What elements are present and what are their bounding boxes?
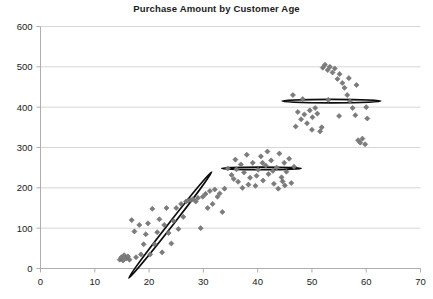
data-point <box>242 170 247 175</box>
data-point <box>164 205 169 210</box>
data-point <box>282 160 287 165</box>
x-tick-label-50: 50 <box>307 276 318 287</box>
data-point <box>210 201 215 206</box>
x-axis-ticks: 010203040506070 <box>38 269 426 287</box>
data-point <box>350 105 355 110</box>
data-point <box>354 82 359 87</box>
data-point <box>363 142 368 147</box>
data-point <box>365 116 370 121</box>
data-point <box>293 124 298 129</box>
data-point <box>236 179 241 184</box>
data-point <box>276 186 281 191</box>
data-point <box>340 80 345 85</box>
x-tick-label-0: 0 <box>38 276 43 287</box>
data-point <box>271 181 276 186</box>
x-tick-label-10: 10 <box>89 276 100 287</box>
data-point <box>220 209 225 214</box>
data-point <box>353 113 358 118</box>
y-tick-label-500: 500 <box>17 61 33 72</box>
data-point <box>205 205 210 210</box>
data-point <box>169 241 174 246</box>
data-point <box>337 113 342 118</box>
data-point <box>290 93 295 98</box>
data-point <box>258 154 263 159</box>
y-tick-label-400: 400 <box>17 102 33 113</box>
scatter-chart: Purchase Amount by Customer Age 01002003… <box>0 0 433 299</box>
gridlines <box>41 27 421 269</box>
data-point <box>315 111 320 116</box>
data-point <box>287 156 292 161</box>
x-tick-label-60: 60 <box>361 276 372 287</box>
data-point <box>269 158 274 163</box>
data-point <box>250 160 255 165</box>
data-points <box>117 62 370 263</box>
data-point <box>337 72 342 77</box>
data-point <box>160 250 165 255</box>
y-tick-label-0: 0 <box>27 263 32 274</box>
data-point <box>155 230 160 235</box>
data-point <box>346 76 351 81</box>
data-point <box>289 180 294 185</box>
data-point <box>246 182 251 187</box>
y-tick-label-100: 100 <box>17 223 33 234</box>
data-point <box>342 85 347 90</box>
data-point <box>129 218 134 223</box>
data-point <box>307 108 312 113</box>
data-point <box>265 149 270 154</box>
series-2 <box>290 62 369 147</box>
data-point <box>225 166 230 171</box>
cluster-older <box>282 99 381 103</box>
data-point <box>364 105 369 110</box>
y-axis-ticks: 0100200300400500600 <box>17 21 41 274</box>
data-point <box>157 217 162 222</box>
x-tick-label-20: 20 <box>144 276 155 287</box>
data-point <box>133 255 138 260</box>
data-point <box>145 221 150 226</box>
data-point <box>198 226 203 231</box>
data-point <box>295 109 300 114</box>
data-point <box>176 226 181 231</box>
x-tick-label-70: 70 <box>415 276 426 287</box>
data-point <box>261 178 266 183</box>
data-point <box>277 151 282 156</box>
x-tick-label-30: 30 <box>198 276 209 287</box>
data-point <box>254 173 259 178</box>
data-point <box>247 175 252 180</box>
data-point <box>309 127 314 132</box>
plot-area: 0100200300400500600 010203040506070 <box>0 0 433 299</box>
data-point <box>238 162 243 167</box>
data-point <box>335 76 340 81</box>
data-point <box>150 206 155 211</box>
data-point <box>132 229 137 234</box>
data-point <box>141 242 146 247</box>
data-point <box>326 97 331 102</box>
data-point <box>310 115 315 120</box>
data-point <box>244 152 249 157</box>
data-point <box>137 222 142 227</box>
data-point <box>304 121 309 126</box>
data-point <box>240 185 245 190</box>
data-point <box>302 112 307 117</box>
y-tick-label-300: 300 <box>17 142 33 153</box>
data-point <box>345 93 350 98</box>
data-point <box>233 157 238 162</box>
data-point <box>174 205 179 210</box>
cluster-ellipses <box>127 99 381 279</box>
y-tick-label-200: 200 <box>17 182 33 193</box>
data-point <box>299 117 304 122</box>
data-point <box>300 97 305 102</box>
data-point <box>207 189 212 194</box>
data-point <box>222 186 227 191</box>
data-point <box>266 172 271 177</box>
y-tick-label-600: 600 <box>17 21 33 32</box>
x-tick-label-40: 40 <box>252 276 263 287</box>
data-point <box>166 230 171 235</box>
data-point <box>313 105 318 110</box>
data-point <box>143 232 148 237</box>
